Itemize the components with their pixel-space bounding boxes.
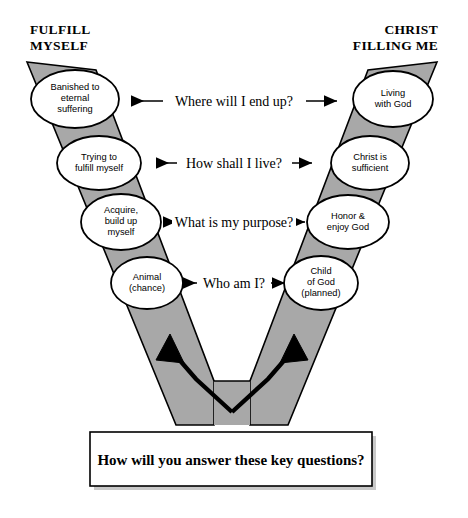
node-right-4[interactable]: Child of God (planned)	[284, 256, 358, 310]
node-right-1-line1: Living	[381, 88, 405, 98]
node-left-2-line2: fulfill myself	[75, 163, 123, 173]
node-right-4-line3: (planned)	[301, 288, 340, 298]
heading-left-line1: FULFILL	[30, 22, 91, 37]
node-left-2-line1: Trying to	[81, 152, 117, 162]
heading-left: FULFILL MYSELF	[30, 22, 91, 53]
question-label-3: What is my purpose?	[175, 215, 294, 230]
question-label-1: Where will I end up?	[175, 94, 293, 109]
heading-right-line1: CHRIST	[384, 22, 438, 37]
node-left-3-line2: build up	[105, 216, 138, 226]
node-left-1-line3: suffering	[57, 104, 93, 114]
heading-right-line2: FILLING ME	[353, 38, 438, 53]
question-label-2: How shall I live?	[186, 156, 282, 171]
node-left-4[interactable]: Animal (chance)	[111, 257, 183, 309]
node-left-1-line2: eternal	[61, 93, 89, 103]
question-row-how-shall-i-live: How shall I live?	[156, 153, 312, 173]
node-right-2[interactable]: Christ is sufficient	[331, 136, 409, 190]
node-right-1-line2: with God	[374, 99, 412, 109]
heading-right: CHRIST FILLING ME	[353, 22, 438, 53]
node-left-4-line2: (chance)	[129, 283, 165, 293]
node-left-3-line3: myself	[108, 227, 135, 237]
node-right-2-line2: sufficient	[352, 163, 389, 173]
diagram-canvas: FULFILL MYSELF CHRIST FILLING ME Where w…	[0, 0, 468, 518]
node-right-3-line2: enjoy God	[327, 222, 369, 232]
key-questions-diagram: FULFILL MYSELF CHRIST FILLING ME Where w…	[0, 0, 468, 518]
heading-left-line2: MYSELF	[30, 38, 88, 53]
node-left-1[interactable]: Banished to eternal suffering	[31, 70, 119, 128]
node-right-1[interactable]: Living with God	[353, 71, 433, 127]
question-label-4: Who am I?	[203, 276, 265, 291]
node-right-4-line2: of God	[307, 277, 335, 287]
node-right-3-line1: Honor &	[331, 211, 366, 221]
node-right-3[interactable]: Honor & enjoy God	[307, 195, 389, 249]
node-left-3-line1: Acquire,	[104, 205, 138, 215]
node-left-1-line1: Banished to	[50, 82, 99, 92]
node-right-2-line1: Christ is	[353, 152, 387, 162]
node-left-2[interactable]: Trying to fulfill myself	[57, 136, 141, 190]
question-row-what-is-my-purpose: What is my purpose?	[163, 212, 305, 232]
caption-box: How will you answer these key questions?	[90, 432, 376, 490]
caption-box-text: How will you answer these key questions?	[97, 452, 364, 468]
node-right-4-line1: Child	[310, 266, 331, 276]
question-row-where-will-i-end-up: Where will I end up?	[131, 91, 337, 111]
node-left-3[interactable]: Acquire, build up myself	[81, 194, 161, 250]
question-row-who-am-i: Who am I?	[183, 273, 285, 293]
node-left-4-line1: Animal	[133, 272, 161, 282]
